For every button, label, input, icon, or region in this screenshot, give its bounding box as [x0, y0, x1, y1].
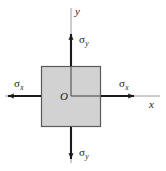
origin-label: O — [60, 91, 68, 102]
stress-element-figure: y x O σx σx σy σy — [0, 0, 166, 171]
sigma-subscript: x — [125, 83, 128, 92]
sigma-x-left-label: σx — [14, 78, 23, 89]
sigma-subscript: y — [85, 152, 88, 161]
sigma-y-bottom-label: σy — [79, 147, 88, 158]
y-axis-label: y — [75, 6, 80, 17]
sigma-subscript: y — [85, 39, 88, 48]
sigma-x-right-label: σx — [119, 78, 128, 89]
x-axis-label: x — [149, 99, 154, 110]
sigma-y-top-label: σy — [79, 34, 88, 45]
sigma-subscript: x — [20, 83, 23, 92]
